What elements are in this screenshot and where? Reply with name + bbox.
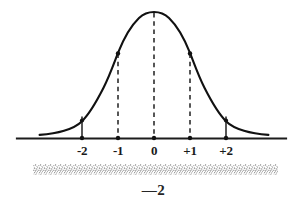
page-caption: —2: [0, 182, 307, 199]
curve-marker-plus-1: [188, 51, 192, 55]
axis-tick-label-zero: 0: [139, 144, 169, 157]
axis-tick-label-minus-2: -2: [67, 144, 97, 157]
axis-tick-dot-minus-1: [116, 136, 120, 140]
normal-curve-figure: -2 -1 0 +1 +2: [0, 0, 307, 204]
curve-marker-plus-2: [224, 118, 228, 122]
axis-tick-dot-plus-1: [188, 136, 192, 140]
curve-marker-minus-1: [116, 51, 120, 55]
degraded-caption-band: [33, 163, 278, 176]
axis-tick-dot-plus-2: [224, 136, 228, 140]
axis-tick-dot-minus-2: [80, 136, 84, 140]
dither-texture: [33, 163, 278, 176]
axis-tick-label-plus-2: +2: [211, 144, 241, 157]
axis-tick-label-minus-1: -1: [103, 144, 133, 157]
axis-tick-label-plus-1: +1: [175, 144, 205, 157]
curve-marker-minus-2: [80, 118, 84, 122]
axis-tick-dot-zero: [152, 136, 156, 140]
